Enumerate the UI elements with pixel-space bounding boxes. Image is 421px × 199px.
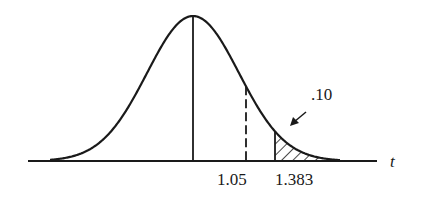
axis-variable-label: t [390, 153, 395, 170]
tick-label-1.383: 1.383 [275, 171, 313, 188]
tick-label-1.05: 1.05 [217, 171, 247, 188]
t-distribution-diagram [0, 0, 421, 199]
density-curve [50, 16, 340, 160]
shaded-area-label: .10 [311, 86, 332, 103]
